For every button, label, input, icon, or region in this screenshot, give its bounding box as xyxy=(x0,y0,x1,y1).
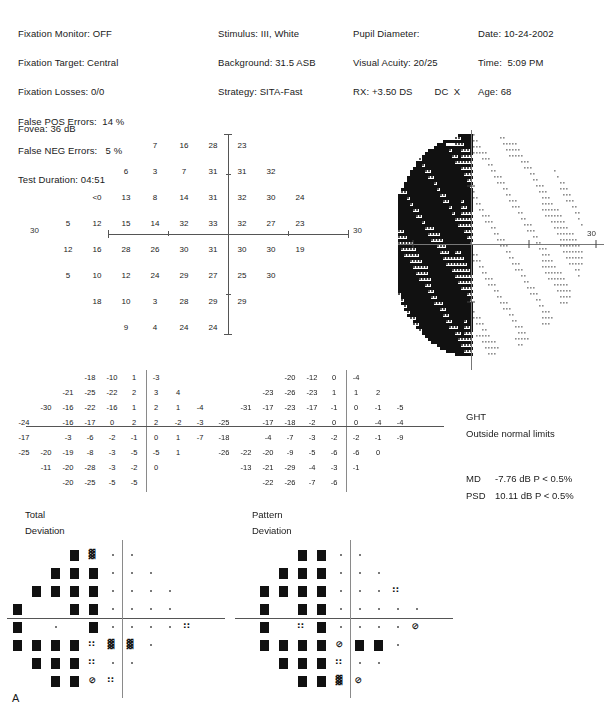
pattern-deviation-symbol-black-square xyxy=(279,568,288,579)
sensitivity-value: 33 xyxy=(204,220,222,228)
psd-label: PSD xyxy=(466,489,486,502)
sensitivity-axis-label-right: 30 xyxy=(353,226,362,235)
pattern-deviation-symbol-dot xyxy=(378,590,380,592)
pattern-deviation-symbol-dot xyxy=(359,608,361,610)
pattern-deviation-symbol-dot xyxy=(340,554,342,556)
sensitivity-value: 29 xyxy=(233,298,251,306)
total-deviation-symbol-p5-symbol: ∷ xyxy=(89,658,95,667)
pattern-deviation-symbol-black-square xyxy=(317,640,326,651)
total-deviation-value: -8 xyxy=(81,449,99,457)
pattern-deviation-symbol-p5-symbol: ∷ xyxy=(336,658,342,667)
axis-end-tick xyxy=(224,134,232,135)
pattern-deviation-value: -17 xyxy=(259,419,277,427)
background-line: Background: 31.5 ASB xyxy=(218,57,316,68)
grayscale-map xyxy=(396,126,606,376)
pattern-deviation-value: -23 xyxy=(281,404,299,412)
total-deviation-value: -5 xyxy=(103,479,121,487)
pattern-deviation-value: 1 xyxy=(325,389,343,397)
pattern-deviation-symbol-black-square xyxy=(317,550,326,561)
total-deviation-symbol-p1-symbol: ▓ xyxy=(108,640,115,649)
pattern-deviation-symbol-p5-symbol: ∷ xyxy=(298,622,304,631)
pattern-deviation-value: 0 xyxy=(347,419,365,427)
total-deviation-symbol-p5-symbol: ∷ xyxy=(108,676,114,685)
sensitivity-value: 27 xyxy=(204,272,222,280)
pattern-deviation-symbol-dot xyxy=(359,590,361,592)
sensitivity-value: 24 xyxy=(175,324,193,332)
pattern-deviation-value: -17 xyxy=(303,404,321,412)
total-deviation-symbol-dot xyxy=(131,626,133,628)
pattern-deviation-symbol-black-square xyxy=(298,550,307,561)
total-deviation-symbol-dot xyxy=(112,590,114,592)
sensitivity-value: 32 xyxy=(175,220,193,228)
sensitivity-value: 5 xyxy=(59,272,77,280)
pattern-deviation-value: 0 xyxy=(369,449,387,457)
total-deviation-symbol-black-square xyxy=(51,676,60,687)
pattern-deviation-symbol-black-square xyxy=(374,640,383,651)
total-deviation-value: -21 xyxy=(59,389,77,397)
strategy-line: Strategy: SITA-Fast xyxy=(218,86,303,97)
sensitivity-value: 16 xyxy=(88,246,106,254)
pattern-deviation-symbol-black-square xyxy=(298,658,307,669)
sensitivity-value: 5 xyxy=(59,220,77,228)
total-deviation-value: -16 xyxy=(59,419,77,427)
sensitivity-value: 30 xyxy=(262,194,280,202)
total-deviation-value: 2 xyxy=(147,419,165,427)
pattern-deviation-symbol-black-square xyxy=(260,640,269,651)
pattern-deviation-value: -4 xyxy=(347,374,365,382)
ght-value: Outside normal limits xyxy=(466,427,555,440)
date-line: Date: 10-24-2002 xyxy=(478,28,554,39)
total-deviation-symbol-black-square xyxy=(70,550,79,561)
sensitivity-value: 10 xyxy=(117,298,135,306)
sensitivity-value: 27 xyxy=(262,220,280,228)
sensitivity-value: 24 xyxy=(291,194,309,202)
total-deviation-value: 2 xyxy=(125,419,143,427)
pattern-deviation-symbol-dot xyxy=(340,572,342,574)
sensitivity-numeric-plot: 7162823637313132<01381431323024512151432… xyxy=(0,130,360,360)
total-deviation-symbol-dot xyxy=(169,626,171,628)
total-deviation-symbol-dot xyxy=(150,608,152,610)
total-deviation-symbol-dot xyxy=(150,626,152,628)
sensitivity-value: 19 xyxy=(291,246,309,254)
pattern-deviation-value: -22 xyxy=(259,479,277,487)
grayscale-axis-label-right: 30 xyxy=(587,229,596,238)
ght-label: GHT xyxy=(466,410,486,423)
pattern-deviation-value: -5 xyxy=(303,449,321,457)
pattern-deviation-value: -25 xyxy=(215,419,233,427)
stimulus-line: Stimulus: III, White xyxy=(218,28,299,39)
total-deviation-value: 1 xyxy=(169,404,187,412)
total-deviation-symbol-dot xyxy=(112,662,114,664)
pattern-deviation-value: -20 xyxy=(259,449,277,457)
total-deviation-value: -17 xyxy=(81,419,99,427)
pattern-deviation-symbol-black-square xyxy=(260,622,269,633)
pattern-deviation-symbol-dot xyxy=(359,572,361,574)
total-deviation-value: -22 xyxy=(81,404,99,412)
total-deviation-symbol-dot xyxy=(112,626,114,628)
pattern-deviation-symbol-p1-symbol: ▓ xyxy=(336,676,343,685)
total-deviation-value: -16 xyxy=(59,404,77,412)
pattern-deviation-symbol-dot xyxy=(416,608,418,610)
total-deviation-value: -5 xyxy=(125,479,143,487)
pattern-deviation-symbol-black-square xyxy=(298,604,307,615)
pattern-deviation-value: -6 xyxy=(347,449,365,457)
total-deviation-value: 4 xyxy=(169,389,187,397)
panel-letter: A xyxy=(12,692,19,705)
axis-end-tick xyxy=(108,230,109,238)
total-deviation-value: -18 xyxy=(81,374,99,382)
pattern-deviation-value: -3 xyxy=(303,434,321,442)
pattern-deviation-value: -4 xyxy=(259,434,277,442)
sensitivity-value: 29 xyxy=(204,298,222,306)
total-deviation-value: -16 xyxy=(103,404,121,412)
total-deviation-symbol-dot xyxy=(131,662,133,664)
pattern-deviation-value: -26 xyxy=(215,449,233,457)
total-deviation-plot-label-line1: Total xyxy=(25,508,45,521)
pattern-deviation-value: -1 xyxy=(369,404,387,412)
md-value: -7.76 dB P < 0.5% xyxy=(495,472,572,485)
pattern-deviation-symbol-dot xyxy=(359,662,361,664)
axis-tick xyxy=(288,231,289,236)
vertical-axis xyxy=(228,134,229,334)
sensitivity-value: 23 xyxy=(233,142,251,150)
age-line: Age: 68 xyxy=(478,86,511,97)
total-deviation-value: -10 xyxy=(103,374,121,382)
sensitivity-value: 30 xyxy=(175,246,193,254)
pattern-deviation-symbol-dot xyxy=(340,608,342,610)
